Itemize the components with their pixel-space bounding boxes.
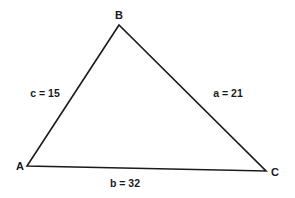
side-label-c: c = 15 [30, 87, 60, 99]
side-label-a: a = 21 [213, 87, 243, 99]
vertex-label-a: A [16, 160, 24, 172]
vertex-label-c: C [271, 166, 279, 178]
triangle-diagram: B A C c = 15 a = 21 b = 32 [0, 0, 295, 198]
vertex-label-b: B [115, 9, 123, 21]
side-label-b: b = 32 [110, 177, 140, 189]
